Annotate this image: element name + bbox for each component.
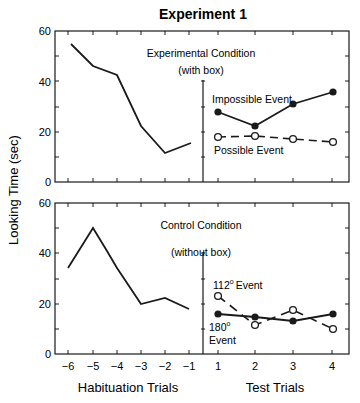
top-habituation-line <box>71 44 191 153</box>
event-112-label: 112oEvent <box>213 278 263 291</box>
svg-text:1: 1 <box>215 360 221 372</box>
svg-text:3: 3 <box>290 360 296 372</box>
event-180-label: 180o <box>209 320 231 333</box>
svg-text:40: 40 <box>39 247 51 259</box>
x-axis-label-habituation: Habituation Trials <box>78 380 179 395</box>
svg-text:0: 0 <box>45 348 51 360</box>
svg-text:20: 20 <box>39 298 51 310</box>
event-180-label-2: Event <box>209 334 236 346</box>
svg-text:4: 4 <box>329 360 335 372</box>
event-112-line <box>218 296 333 329</box>
svg-text:−5: −5 <box>87 360 100 372</box>
svg-text:−6: −6 <box>62 360 75 372</box>
top-y-ticks: 60 40 20 0 <box>39 25 51 188</box>
bottom-y-ticks: 60 40 20 0 <box>39 197 51 360</box>
chart-figure: Experiment 1 Looking Time (sec) 60 40 20… <box>0 0 360 403</box>
y-axis-label: Looking Time (sec) <box>6 135 21 245</box>
svg-text:−1: −1 <box>183 360 196 372</box>
top-condition-label: Experimental Condition <box>147 47 256 59</box>
svg-text:60: 60 <box>39 197 51 209</box>
bottom-habituation-line <box>68 228 189 309</box>
bottom-panel: 60 40 20 0 Control Condition (wit <box>39 197 349 360</box>
svg-text:2: 2 <box>252 360 258 372</box>
x-tick-labels: −6 −5 −4 −3 −2 −1 1 2 3 4 <box>62 360 335 372</box>
event-112-markers <box>215 293 337 333</box>
possible-event-line <box>218 136 333 142</box>
top-panel: 60 40 20 0 <box>39 25 349 188</box>
chart-title: Experiment 1 <box>159 6 247 22</box>
top-condition-sublabel: (with box) <box>178 64 224 76</box>
bottom-condition-label: Control Condition <box>160 219 241 231</box>
bottom-condition-sublabel: (without box) <box>171 246 231 258</box>
svg-text:0: 0 <box>45 176 51 188</box>
svg-text:20: 20 <box>39 126 51 138</box>
svg-text:40: 40 <box>39 76 51 88</box>
possible-event-label: Possible Event <box>214 144 284 156</box>
impossible-event-label: Impossible Event <box>212 93 292 105</box>
x-axis-label-test: Test Trials <box>246 380 305 395</box>
svg-text:−2: −2 <box>159 360 172 372</box>
svg-text:60: 60 <box>39 25 51 37</box>
svg-text:−4: −4 <box>111 360 124 372</box>
svg-text:−3: −3 <box>135 360 148 372</box>
